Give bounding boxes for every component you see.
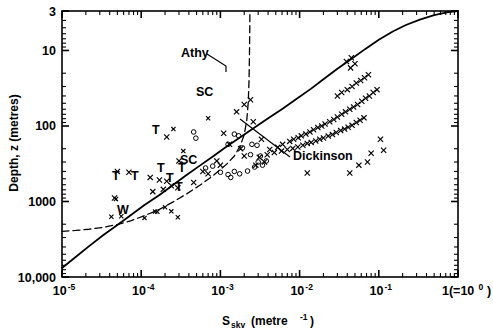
x-tick-mantissa-4: 10 [370,284,384,298]
sc-label-upper: SC [196,85,213,99]
x-tick-exponent-0: -5 [68,282,76,292]
figure-container: 310100100010,000 10-510-410-310-210-11(=… [0,0,493,333]
x-tick-exponent-5: 0 [479,282,484,292]
x-tick-mantissa-5: 1(=10 [442,284,474,298]
y-tick-label-1: 10 [42,44,56,58]
y-tick-label-4: 10,000 [18,271,56,285]
x-axis-title-unit-exponent: -1 [300,312,308,322]
dickinson-label: Dickinson [293,149,353,163]
y-axis-title: Depth, z (metres) [7,94,21,191]
label-T-5: T [175,180,183,194]
y-tick-label-3: 1000 [28,195,56,209]
label-T-1: T [152,123,160,137]
x-axis-title-unit-close: ) [310,314,314,328]
depth-vs-skv-chart: 310100100010,000 10-510-410-310-210-11(=… [0,0,493,333]
x-tick-mantissa-0: 10 [53,284,67,298]
x-axis-title-unit: (metre [251,314,288,328]
label-W-1: W [117,203,129,217]
label-T-2: T [112,169,120,183]
x-tick-exponent-4: -1 [385,282,393,292]
label-T-3: T [131,169,139,183]
x-tick-mantissa-1: 10 [132,284,146,298]
x-tick-mantissa-3: 10 [290,284,304,298]
x-axis-title-main: S [222,314,230,328]
x-tick-mantissa-2: 10 [211,284,225,298]
athy-label: Athy [181,46,209,60]
x-tick-close-paren: ) [487,284,491,298]
label-T-4: T [166,171,174,185]
label-T-6: T [157,161,165,175]
y-tick-label-2: 100 [35,119,56,133]
y-tick-label-0: 3 [49,5,56,19]
x-tick-exponent-2: -3 [226,282,234,292]
x-axis-title-sub: skv [231,320,245,330]
x-tick-exponent-3: -2 [305,282,313,292]
label-T-7: T [178,161,186,175]
x-tick-exponent-1: -4 [147,282,155,292]
